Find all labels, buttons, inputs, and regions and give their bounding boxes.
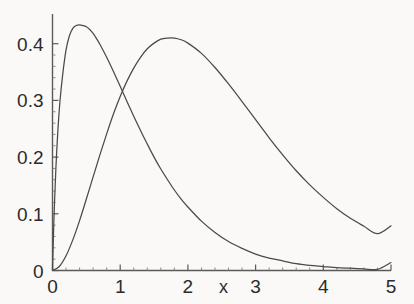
y-tick-label: 0.3 xyxy=(17,91,43,110)
chart-figure: 0.40.30.20.10 012345 x xyxy=(0,0,414,304)
x-tick-label: 5 xyxy=(371,277,411,296)
y-tick-label: 0.4 xyxy=(17,35,43,54)
y-tick-label: 0.1 xyxy=(17,205,43,224)
data-line-1 xyxy=(53,25,392,271)
y-tick-label: 0.2 xyxy=(17,148,43,167)
data-series-group xyxy=(53,25,392,271)
plot-canvas xyxy=(0,0,414,304)
x-tick-label: 4 xyxy=(303,277,343,296)
axes-group xyxy=(53,14,392,271)
x-tick-label: 2 xyxy=(168,277,208,296)
x-axis-label: x xyxy=(219,278,228,296)
x-tick-label: 0 xyxy=(33,277,73,296)
x-tick-label: 3 xyxy=(236,277,276,296)
x-tick-label: 1 xyxy=(100,277,140,296)
data-line-2 xyxy=(53,38,392,271)
